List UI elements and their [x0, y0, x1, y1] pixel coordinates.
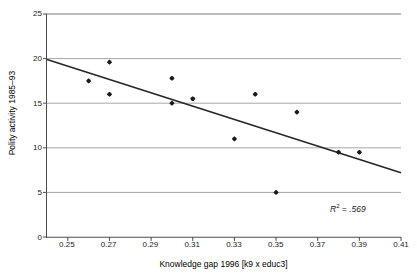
x-axis-tick-label: 0.41	[393, 241, 409, 249]
y-axis-tick-label: 15	[33, 100, 42, 108]
data-point	[86, 78, 91, 83]
data-point	[232, 136, 237, 141]
data-point-marker	[357, 150, 362, 155]
x-axis-tick-label: 0.25	[59, 241, 75, 249]
x-axis-tick-label: 0.39	[351, 241, 367, 249]
x-axis-tick-label: 0.27	[101, 241, 117, 249]
y-axis-title: Polity activity 1985–93	[7, 33, 17, 193]
data-point	[107, 92, 112, 97]
data-point	[190, 96, 195, 101]
data-point-marker	[107, 92, 112, 97]
y-axis-tick-label: 0	[38, 234, 42, 242]
y-axis-tick-label: 25	[33, 10, 42, 18]
data-point	[357, 150, 362, 155]
data-point-marker	[294, 110, 299, 115]
data-point	[107, 60, 112, 65]
r-squared-value: = .569	[339, 204, 365, 214]
data-point-marker	[232, 136, 237, 141]
data-point	[169, 101, 174, 106]
x-axis-tick-label: 0.37	[310, 241, 326, 249]
y-axis-tick-labels: 0510152025	[18, 14, 42, 238]
x-axis-tick-label: 0.33	[226, 241, 242, 249]
data-point	[294, 110, 299, 115]
data-point-marker	[273, 190, 278, 195]
data-point-marker	[169, 76, 174, 81]
data-point-marker	[107, 60, 112, 65]
data-point-marker	[86, 78, 91, 83]
x-axis-tick-label: 0.29	[143, 241, 159, 249]
data-point-marker	[253, 92, 258, 97]
data-point	[253, 92, 258, 97]
y-axis-tick-label: 20	[33, 55, 42, 63]
data-point-marker	[190, 96, 195, 101]
trendline	[47, 59, 401, 172]
data-point-marker	[169, 101, 174, 106]
x-axis-tick-label: 0.35	[268, 241, 284, 249]
scatter-plot-figure: 0510152025 0.250.270.290.310.330.350.370…	[0, 0, 417, 278]
x-axis-title: Knowledge gap 1996 [k9 x educ3]	[46, 259, 401, 269]
x-axis-tick-labels: 0.250.270.290.310.330.350.370.390.41	[46, 241, 401, 255]
y-axis-tick-label: 10	[33, 144, 42, 152]
data-point	[273, 190, 278, 195]
data-point	[169, 76, 174, 81]
r-squared-annotation: R2 = .569	[330, 203, 366, 214]
x-axis-tick-label: 0.31	[184, 241, 200, 249]
y-axis-tick-label: 5	[38, 189, 42, 197]
